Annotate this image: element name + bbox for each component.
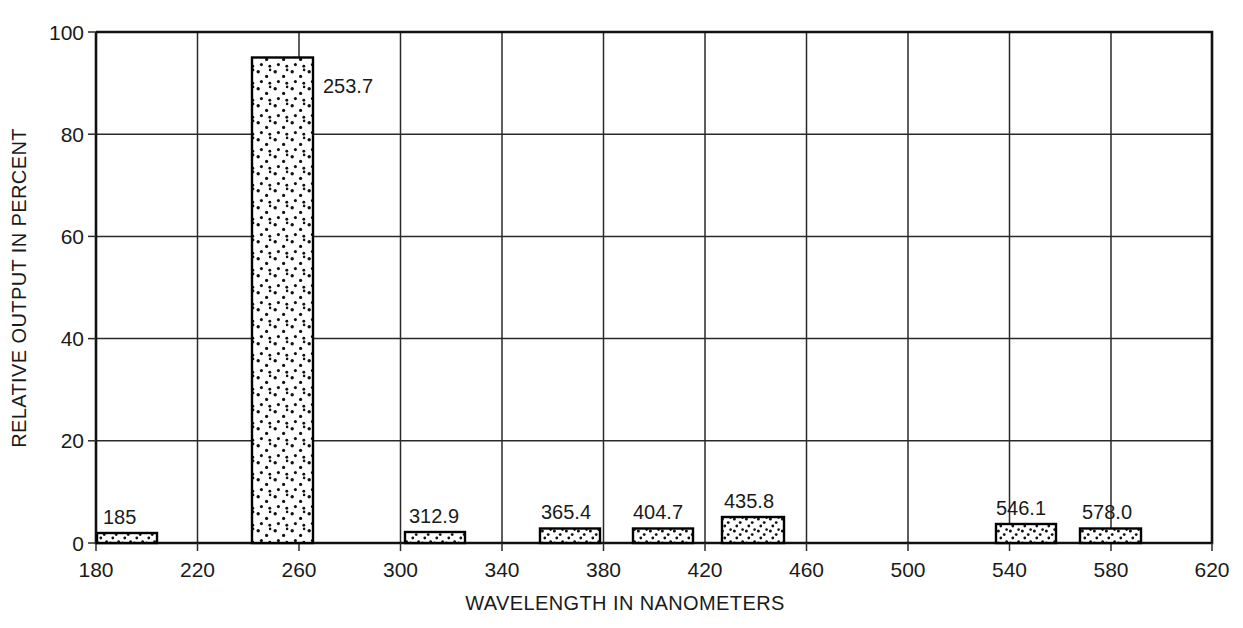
x-tick-260: 260: [281, 558, 316, 581]
bar-578-0: [1080, 529, 1141, 544]
x-tick-420: 420: [687, 558, 722, 581]
x-tick-540: 540: [992, 558, 1027, 581]
x-tick-labels: 180 220 260 300 340 380 420 460 500 540 …: [78, 558, 1229, 581]
x-tick-580: 580: [1093, 558, 1128, 581]
bar-365-4: [540, 529, 600, 544]
y-tick-80: 80: [61, 123, 84, 146]
x-tick-380: 380: [586, 558, 621, 581]
bar-label-404-7: 404.7: [633, 501, 683, 523]
x-axis-title: WAVELENGTH IN NANOMETERS: [465, 592, 785, 614]
bar-label-365-4: 365.4: [541, 501, 591, 523]
y-tick-20: 20: [61, 429, 84, 452]
bar-label-253-7: 253.7: [323, 75, 373, 97]
bar-312-9: [405, 532, 465, 543]
y-tick-labels: 100 80 60 40 20 0: [49, 21, 84, 555]
bar-label-185: 185: [103, 506, 136, 528]
bar-435-8: [722, 517, 784, 543]
bar-404-7: [633, 529, 693, 544]
bar-label-312-9: 312.9: [409, 505, 459, 527]
bar-253-7: [252, 58, 313, 544]
x-tick-460: 460: [789, 558, 824, 581]
y-tick-40: 40: [61, 327, 84, 350]
bar-series: [97, 58, 1141, 544]
x-tick-620: 620: [1194, 558, 1229, 581]
x-tick-340: 340: [484, 558, 519, 581]
x-tick-180: 180: [78, 558, 113, 581]
bar-label-578-0: 578.0: [1082, 501, 1132, 523]
spectral-output-bar-chart: 185 253.7 312.9 365.4 404.7 435.8 546.1 …: [0, 0, 1243, 628]
y-tick-100: 100: [49, 21, 84, 44]
y-axis-title: RELATIVE OUTPUT IN PERCENT: [8, 128, 30, 448]
x-tick-300: 300: [383, 558, 418, 581]
bar-label-546-1: 546.1: [996, 497, 1046, 519]
y-tick-0: 0: [72, 532, 84, 555]
x-tick-500: 500: [890, 558, 925, 581]
bar-546-1: [996, 524, 1056, 543]
chart-canvas: 185 253.7 312.9 365.4 404.7 435.8 546.1 …: [0, 0, 1243, 628]
y-tick-60: 60: [61, 225, 84, 248]
x-tick-220: 220: [180, 558, 215, 581]
bar-label-435-8: 435.8: [724, 490, 774, 512]
bar-185: [97, 533, 157, 543]
